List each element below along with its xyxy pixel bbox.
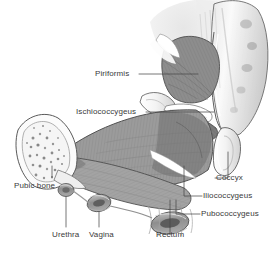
label-urethra: Urethra [52, 230, 79, 239]
label-pubococcygeus: Pubococcygeus [201, 209, 259, 218]
label-ischiococcygeus: Ischiococcygeus [76, 107, 136, 116]
label-rectum: Rectum [156, 230, 184, 239]
anatomy-figure: Piriformis Ischiococcygeus Pubic bone Ur… [0, 0, 273, 257]
pubic-bone-cross-section [16, 114, 86, 189]
label-iliococcygeus: Iliococcygeus [203, 191, 252, 200]
anatomy-illustration [0, 0, 273, 257]
label-coccyx: Coccyx [216, 173, 243, 182]
label-vagina: Vagina [89, 230, 114, 239]
urethra-canal [58, 184, 74, 197]
label-pubic-bone: Pubic bone [14, 181, 55, 190]
label-piriformis: Piriformis [95, 69, 129, 78]
